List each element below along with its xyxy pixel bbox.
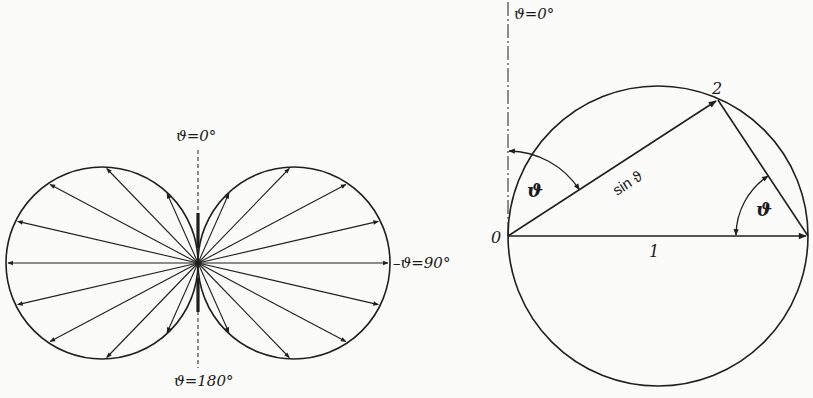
radial-arrow [198,263,346,342]
radial-arrow [198,194,229,264]
radial-arrow [198,221,378,263]
angle-arc-left [509,151,579,190]
sin-theta-arrow [508,101,716,236]
label-angle-left: ϑ [527,179,543,201]
radial-arrow [198,169,289,264]
radial-arrow [167,194,198,264]
radial-arrow [198,184,346,263]
radial-arrow [50,184,198,263]
radial-arrow [50,263,198,342]
radial-arrow [198,263,378,305]
polar-pattern-figure: ϑ=0° ϑ=180° –ϑ=90° [6,127,450,390]
radial-arrow [107,169,198,264]
label-point-0: 0 [491,228,501,247]
radial-arrows [8,169,388,358]
label-sin-theta: sin ϑ [609,167,645,199]
label-theta-0-right: ϑ=0° [514,5,554,23]
construction-figure: ϑ=0° 0 2 sin ϑ 1 ϑ ϑ [491,2,808,386]
label-theta-180: ϑ=180° [174,372,233,390]
radial-arrow [198,263,289,358]
diagram-canvas: ϑ=0° ϑ=180° –ϑ=90° ϑ=0° 0 2 sin ϑ 1 ϑ ϑ [0,0,813,398]
radial-arrow [198,263,229,333]
radial-arrow [167,263,198,333]
radial-arrow [18,221,198,263]
label-theta-90: –ϑ=90° [393,254,450,272]
radial-arrow [107,263,198,358]
radial-arrow [18,263,198,305]
label-diameter-1: 1 [649,242,659,261]
label-angle-right: ϑ [756,198,772,220]
label-point-2: 2 [711,79,722,98]
label-theta-0-left: ϑ=0° [176,127,216,145]
